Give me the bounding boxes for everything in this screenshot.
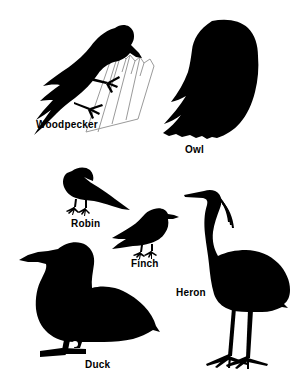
owl-body [163,20,258,139]
robin-label: Robin [71,218,100,229]
owl-silhouette-icon [160,16,270,146]
heron-label: Heron [176,287,206,298]
duck-body [19,242,160,357]
woodpecker-silhouette-icon [20,14,170,134]
owl-figure-group: Owl [160,16,270,146]
duck-silhouette-icon [14,240,164,370]
heron-figure-group: Heron [182,186,294,372]
duck-label: Duck [85,359,110,370]
owl-label: Owl [185,144,204,155]
heron-body [184,190,290,369]
woodpecker-figure-group: Woodpecker [20,14,170,134]
woodpecker-label: Woodpecker [36,119,98,130]
duck-figure-group: Duck [14,240,164,370]
bird-silhouette-figure: Woodpecker Owl [0,0,298,390]
heron-silhouette-icon [182,186,294,372]
